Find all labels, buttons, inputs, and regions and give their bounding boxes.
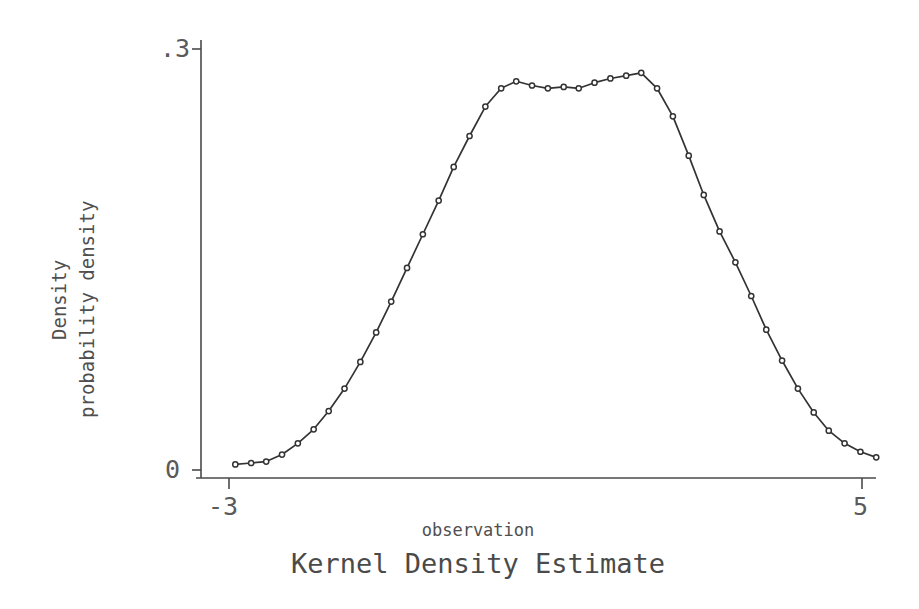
data-point-marker — [279, 452, 284, 457]
data-point-marker — [436, 198, 441, 203]
data-point-marker — [654, 86, 659, 91]
data-point-marker — [779, 358, 784, 363]
data-point-marker — [811, 410, 816, 415]
data-point-marker — [670, 114, 675, 119]
data-point-marker — [717, 229, 722, 234]
data-point-marker — [529, 83, 534, 88]
y-tick-label-top: .3 — [160, 34, 190, 63]
density-markers — [233, 70, 879, 467]
data-point-marker — [624, 73, 629, 78]
kernel-density-figure: .3 0 -3 5 Density probability density ob… — [0, 0, 919, 609]
data-point-marker — [545, 86, 550, 91]
x-tick-label-right: 5 — [853, 492, 868, 521]
data-point-marker — [499, 86, 504, 91]
density-curve-series — [233, 70, 879, 467]
data-point-marker — [374, 330, 379, 335]
data-point-marker — [326, 408, 331, 413]
data-point-marker — [561, 84, 566, 89]
data-point-marker — [749, 293, 754, 298]
chart-plot-area — [0, 0, 919, 609]
data-point-marker — [701, 192, 706, 197]
data-point-marker — [451, 164, 456, 169]
density-line — [235, 73, 876, 465]
data-point-marker — [342, 386, 347, 391]
data-point-marker — [483, 104, 488, 109]
data-point-marker — [842, 441, 847, 446]
data-point-marker — [795, 386, 800, 391]
data-point-marker — [608, 76, 613, 81]
data-point-marker — [249, 460, 254, 465]
x-axis-title: observation — [422, 520, 535, 540]
data-point-marker — [576, 86, 581, 91]
data-point-marker — [420, 232, 425, 237]
y-tick-label-bottom: 0 — [165, 455, 180, 484]
data-point-marker — [639, 70, 644, 75]
data-point-marker — [733, 260, 738, 265]
y-axis-title-inner: probability density — [76, 201, 98, 418]
x-tick-label-left: -3 — [208, 492, 238, 521]
axes-group — [192, 40, 876, 489]
data-point-marker — [874, 455, 879, 460]
data-point-marker — [592, 80, 597, 85]
data-point-marker — [264, 459, 269, 464]
data-point-marker — [358, 359, 363, 364]
data-point-marker — [764, 327, 769, 332]
data-point-marker — [514, 79, 519, 84]
data-point-marker — [311, 427, 316, 432]
data-point-marker — [826, 428, 831, 433]
y-axis-title-outer: Density — [48, 260, 70, 340]
data-point-marker — [233, 462, 238, 467]
data-point-marker — [404, 265, 409, 270]
data-point-marker — [389, 299, 394, 304]
chart-title: Kernel Density Estimate — [291, 548, 665, 579]
data-point-marker — [295, 441, 300, 446]
data-point-marker — [858, 449, 863, 454]
data-point-marker — [467, 133, 472, 138]
data-point-marker — [686, 153, 691, 158]
